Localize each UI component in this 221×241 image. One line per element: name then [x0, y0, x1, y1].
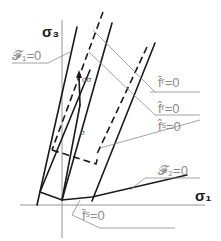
yield-surface-diagram: σ₃ σ₁ 𝓕₁=0 f̄ʳ=0 f̂ʳ=0 f̂ˢ=0 𝓕₂=0 f̄ˢ=0 … — [0, 0, 221, 241]
f2-label: 𝓕₂=0 — [158, 163, 188, 178]
fr-hat-label: f̂ʳ=0 — [157, 101, 180, 116]
fs-bar-label: f̄ˢ=0 — [82, 208, 105, 223]
sigma3-axis-label: σ₃ — [42, 23, 59, 40]
dsigma-label: dσ — [82, 75, 91, 84]
fr-hat-leader — [89, 52, 200, 115]
fr-bar-leader — [93, 30, 200, 92]
dashed-line-2 — [96, 47, 147, 156]
f1-label: 𝓕₁=0 — [12, 48, 41, 63]
fs-hat-label: f̂ˢ=0 — [157, 119, 181, 134]
yield-line-3 — [62, 23, 112, 200]
fr-bar-label: f̄ʳ=0 — [158, 75, 180, 90]
sigma-label: σ — [80, 128, 85, 137]
sigma-vector — [62, 105, 80, 200]
dsigma-arrow — [79, 75, 80, 105]
sigma1-axis-label: σ₁ — [195, 187, 211, 204]
yield-line-4 — [92, 43, 155, 201]
fs-hat-leader — [100, 120, 200, 148]
